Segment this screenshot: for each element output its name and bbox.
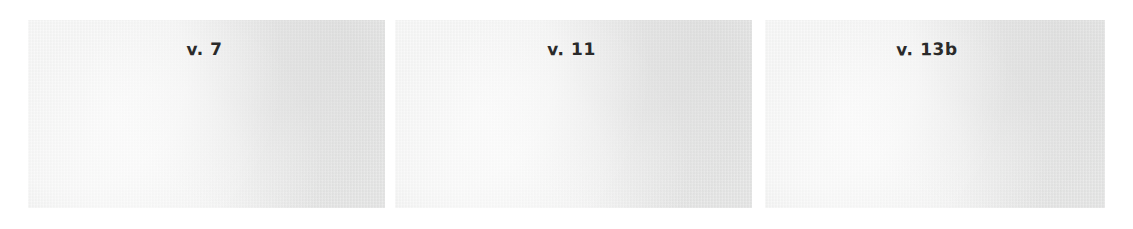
image-panel-verse-11: v. 11 <box>395 20 752 208</box>
panel-label-verse-13b: v. 13b <box>765 39 1105 60</box>
image-panel-verse-7: v. 7 <box>28 20 385 208</box>
figure-panel-strip: v. 7 v. 11 v. 13b <box>0 0 1133 229</box>
panel-label-verse-7: v. 7 <box>28 39 385 60</box>
panel-label-verse-11: v. 11 <box>395 39 752 60</box>
image-panel-verse-13b: v. 13b <box>765 20 1105 208</box>
